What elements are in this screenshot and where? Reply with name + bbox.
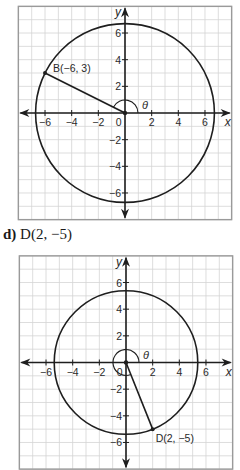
x-axis-label: x [225, 365, 233, 379]
point-label: B(−6, 3) [53, 62, 91, 74]
point-label: D(2, −5) [156, 432, 194, 444]
theta-label: θ [142, 99, 148, 111]
y-tick-label: −6 [109, 187, 121, 199]
x-tick-label: 6 [202, 116, 208, 128]
x-tick-label: 4 [175, 116, 181, 128]
x-tick-label: −6 [39, 116, 51, 128]
x-axis-label: x [224, 115, 232, 129]
x-tick-label: 2 [149, 116, 155, 128]
x-tick-label: 0 [116, 116, 122, 128]
chart-d: −6−4−20246642−2−4−6xyθD(2, −5) [0, 249, 240, 470]
terminal-point [43, 71, 47, 75]
y-axis-label: y [115, 255, 123, 269]
x-tick-label: 2 [150, 366, 156, 378]
chart-shapes [20, 257, 231, 468]
part-letter: d) [3, 226, 16, 242]
y-axis-label: y [114, 5, 122, 19]
y-tick-label: −4 [109, 160, 121, 172]
y-tick-label: 2 [115, 80, 121, 92]
x-tick-label: −4 [67, 366, 79, 378]
x-tick-label: −2 [92, 116, 104, 128]
x-tick-label: 0 [117, 366, 123, 378]
y-tick-label: 6 [115, 27, 121, 39]
terminal-point [151, 427, 155, 431]
part-point-text: D(2, −5) [20, 226, 72, 242]
y-tick-label: 6 [116, 277, 122, 289]
y-tick-label: −2 [110, 383, 122, 395]
x-tick-label: −6 [40, 366, 52, 378]
y-tick-label: −4 [110, 410, 122, 422]
y-tick-label: 4 [115, 54, 121, 66]
x-tick-label: −4 [66, 116, 78, 128]
x-tick-label: 6 [203, 366, 209, 378]
chart-labels: −6−4−20246642−2−4−6xyθB(−6, 3) [39, 5, 232, 199]
y-tick-label: −6 [110, 436, 122, 448]
origin-point [124, 360, 128, 364]
part-d-label: d) D(2, −5) [3, 226, 72, 243]
y-tick-label: 4 [116, 303, 122, 315]
origin-point [123, 111, 127, 115]
y-tick-label: −2 [109, 134, 121, 146]
y-tick-label: 2 [116, 330, 122, 342]
chart-shapes [19, 7, 230, 218]
x-tick-label: 4 [176, 366, 182, 378]
chart-b: −6−4−20246642−2−4−6xyθB(−6, 3) [0, 0, 240, 226]
chart-labels: −6−4−20246642−2−4−6xyθD(2, −5) [40, 255, 233, 449]
theta-label: θ [143, 349, 149, 361]
x-tick-label: −2 [93, 366, 105, 378]
